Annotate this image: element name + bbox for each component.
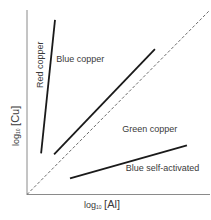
- annotation-blue-self-activated: Blue self-activated: [126, 164, 200, 173]
- phase-diagram: [0, 0, 211, 220]
- series-line-1: [54, 49, 155, 154]
- series-line-2: [70, 145, 187, 178]
- annotation-green-copper: Green copper: [122, 125, 177, 134]
- x-axis-label: log10 [Al]: [84, 199, 120, 210]
- annotation-blue-copper: Blue copper: [56, 55, 104, 64]
- y-axis-label: log10 [Cu]: [10, 106, 21, 146]
- annotation-red-copper: Red copper: [36, 41, 45, 88]
